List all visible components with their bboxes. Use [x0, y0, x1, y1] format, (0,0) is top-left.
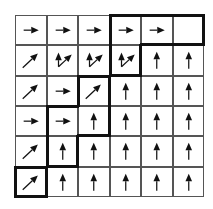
up-arrow-icon — [142, 168, 172, 196]
up-diagonal-arrow-icon — [79, 46, 109, 74]
grid-cell — [141, 106, 173, 136]
path-border — [14, 166, 48, 169]
right-arrow-icon — [111, 16, 141, 44]
up-arrow-icon — [142, 77, 172, 105]
up-arrow-icon — [142, 46, 172, 74]
up-arrow-icon — [174, 168, 204, 196]
path-border — [109, 44, 112, 76]
up-arrow-icon — [79, 107, 109, 135]
diagonal-arrow-icon — [16, 46, 46, 74]
grid-cell — [110, 45, 142, 75]
right-arrow-icon — [142, 16, 172, 44]
grid-cell — [47, 15, 79, 45]
up-arrow-icon — [111, 137, 141, 165]
path-border — [46, 105, 80, 108]
up-arrow-icon — [79, 168, 109, 196]
up-arrow-icon — [79, 137, 109, 165]
up-arrow-icon — [111, 107, 141, 135]
up-arrow-icon — [174, 77, 204, 105]
up-arrow-icon — [142, 137, 172, 165]
path-border — [77, 75, 80, 107]
up-arrow-icon — [48, 137, 78, 165]
grid-cell — [141, 76, 173, 106]
grid-cell — [15, 167, 47, 197]
traceback-grid — [15, 15, 204, 197]
right-arrow-icon — [16, 107, 46, 135]
path-border — [108, 75, 111, 107]
grid-cell — [78, 106, 110, 136]
up-diagonal-arrow-icon — [48, 46, 78, 74]
up-arrow-icon — [142, 107, 172, 135]
right-arrow-icon — [79, 16, 109, 44]
grid-cell — [173, 167, 205, 197]
grid-cell — [173, 76, 205, 106]
grid-cell — [110, 167, 142, 197]
grid-cell — [110, 106, 142, 136]
grid-cell — [47, 45, 79, 75]
right-arrow-icon — [48, 77, 78, 105]
up-arrow-icon — [174, 107, 204, 135]
grid-cell — [173, 136, 205, 166]
grid-cell — [173, 106, 205, 136]
up-arrow-icon — [174, 46, 204, 74]
grid-cell — [173, 45, 205, 75]
grid-cell — [141, 136, 173, 166]
grid-cell — [78, 45, 110, 75]
path-border — [77, 134, 111, 137]
up-arrow-icon — [174, 137, 204, 165]
diagonal-arrow-icon — [16, 137, 46, 165]
grid-cell — [110, 15, 142, 45]
grid-cell — [15, 136, 47, 166]
grid-cell — [141, 167, 173, 197]
grid-cell — [141, 45, 173, 75]
path-border — [140, 43, 174, 46]
right-arrow-icon — [48, 107, 78, 135]
grid-cell — [141, 15, 173, 45]
grid-cell — [110, 136, 142, 166]
grid-cell — [173, 15, 205, 45]
up-arrow-icon — [48, 168, 78, 196]
path-border — [108, 105, 111, 137]
grid-cell — [78, 167, 110, 197]
path-border — [46, 165, 80, 168]
path-border — [109, 74, 143, 77]
path-border — [45, 166, 48, 198]
path-border — [77, 75, 111, 78]
path-border — [14, 195, 48, 198]
path-border — [109, 14, 112, 46]
grid-cell — [15, 106, 47, 136]
path-border — [76, 135, 79, 167]
grid-cell — [78, 136, 110, 166]
grid-cell — [47, 167, 79, 197]
path-border — [172, 14, 206, 17]
path-border — [202, 14, 205, 46]
grid-cell — [78, 15, 110, 45]
diagonal-arrow-icon — [16, 168, 46, 196]
diagonal-arrow-icon — [79, 77, 109, 105]
grid-cell — [47, 136, 79, 166]
grid-cell — [78, 76, 110, 106]
path-border — [14, 166, 17, 198]
path-border — [139, 44, 142, 76]
path-border — [46, 135, 49, 167]
grid-cell — [15, 45, 47, 75]
right-arrow-icon — [16, 16, 46, 44]
right-arrow-icon — [48, 16, 78, 44]
up-arrow-icon — [111, 77, 141, 105]
up-arrow-icon — [111, 168, 141, 196]
grid-cell — [47, 106, 79, 136]
path-border — [109, 14, 143, 17]
grid-cell — [47, 76, 79, 106]
diagonal-arrow-icon — [16, 77, 46, 105]
up-diagonal-arrow-icon — [111, 46, 141, 74]
grid-cell — [15, 76, 47, 106]
path-border — [46, 105, 49, 137]
grid-cell — [15, 15, 47, 45]
grid-cell — [110, 76, 142, 106]
path-border — [172, 43, 206, 46]
path-border — [140, 14, 174, 17]
